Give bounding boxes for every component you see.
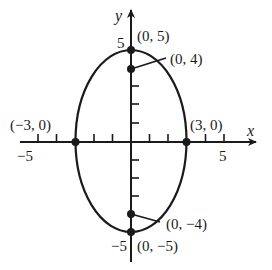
y-axis-label: y <box>113 7 123 25</box>
x-tick-label-neg5: −5 <box>17 148 33 164</box>
x-axis-label: x <box>246 122 254 139</box>
diagram-canvas: x y −5 5 5 −5 (0, 5) (0, 4) (−3, 0) (3, … <box>0 0 272 270</box>
label-focus-top: (0, 4) <box>170 51 203 68</box>
label-vertex-bottom: (0, −5) <box>137 238 178 255</box>
label-covertex-right: (3, 0) <box>190 117 223 134</box>
point-vertex-top <box>127 46 135 54</box>
point-focus-bottom <box>127 210 135 218</box>
point-covertex-right <box>183 138 191 146</box>
point-focus-top <box>127 65 135 73</box>
y-tick-label-neg5: −5 <box>111 238 127 254</box>
point-covertex-left <box>72 138 80 146</box>
ellipse-diagram: x y −5 5 5 −5 (0, 5) (0, 4) (−3, 0) (3, … <box>0 0 272 270</box>
point-vertex-bottom <box>127 228 135 236</box>
leader-line-focus-bottom <box>131 214 160 222</box>
label-focus-bottom: (0, −4) <box>166 216 207 233</box>
x-tick-label-5: 5 <box>219 148 227 164</box>
label-vertex-top: (0, 5) <box>137 28 170 45</box>
y-tick-label-5: 5 <box>117 35 125 51</box>
label-covertex-left: (−3, 0) <box>10 117 51 134</box>
